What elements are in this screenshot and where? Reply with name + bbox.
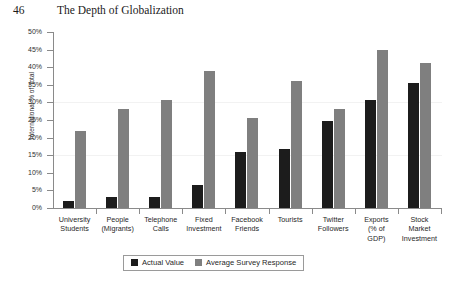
bar-group [225, 32, 268, 208]
bar-actual-value [365, 100, 376, 208]
bar-group [269, 32, 312, 208]
bar-survey-response [291, 81, 302, 208]
bar-group [139, 32, 182, 208]
y-axis-tick-label: 15% [0, 151, 42, 158]
bar-group [96, 32, 139, 208]
x-axis-category-label: StockMarketInvestment [391, 215, 447, 243]
bar-actual-value [149, 197, 160, 208]
bar-survey-response [118, 109, 129, 208]
bar-actual-value [63, 201, 74, 208]
x-axis-separator-tick [225, 209, 226, 214]
y-axis-tick-label: 35% [0, 81, 42, 88]
y-axis-tick-label: 30% [0, 98, 42, 105]
bar-group [182, 32, 225, 208]
x-axis-separator-tick [441, 209, 442, 214]
bar-actual-value [408, 83, 419, 208]
x-axis-separator-tick [355, 209, 356, 214]
bar-chart-figure: International % of Total 0%5%10%15%20%25… [0, 22, 453, 284]
bar-actual-value [192, 185, 203, 208]
x-axis-separator-tick [139, 209, 140, 214]
bar-survey-response [161, 100, 172, 208]
y-axis-tick-label: 0% [0, 204, 42, 211]
y-axis-tick-label: 20% [0, 134, 42, 141]
y-axis-tick-label: 40% [0, 63, 42, 70]
x-axis-separator-tick [182, 209, 183, 214]
bar-group [398, 32, 441, 208]
legend-label-actual: Actual Value [142, 258, 184, 267]
running-head: The Depth of Globalization [57, 4, 184, 16]
bar-group [355, 32, 398, 208]
bar-survey-response [377, 50, 388, 208]
x-axis-separator-tick [96, 209, 97, 214]
bar-actual-value [106, 197, 117, 208]
bar-group [53, 32, 96, 208]
bar-actual-value [322, 121, 333, 208]
legend-swatch-survey-icon [195, 259, 202, 266]
y-axis-tick-label: 5% [0, 186, 42, 193]
y-axis-tick-label: 50% [0, 28, 42, 35]
bar-actual-value [235, 152, 246, 208]
bar-group [312, 32, 355, 208]
x-axis-separator-tick [312, 209, 313, 214]
legend-entry-survey: Average Survey Response [195, 258, 296, 267]
legend-entry-actual: Actual Value [131, 258, 184, 267]
bar-survey-response [75, 131, 86, 208]
bar-survey-response [204, 71, 215, 208]
bar-actual-value [279, 149, 290, 208]
y-axis-tick [47, 208, 53, 209]
page-header: 46 The Depth of Globalization [0, 4, 453, 22]
y-axis-tick-label: 25% [0, 116, 42, 123]
legend-label-survey: Average Survey Response [206, 258, 296, 267]
chart-legend: Actual Value Average Survey Response [123, 255, 304, 271]
x-axis-separator-tick [269, 209, 270, 214]
x-axis-line [53, 208, 442, 209]
plot-area [53, 32, 441, 208]
x-axis-separator-tick [398, 209, 399, 214]
bar-survey-response [334, 109, 345, 208]
bar-survey-response [420, 63, 431, 208]
legend-swatch-actual-icon [131, 259, 138, 266]
bar-survey-response [247, 118, 258, 208]
page-number: 46 [13, 4, 25, 16]
y-axis-tick-label: 45% [0, 46, 42, 53]
y-axis-tick-label: 10% [0, 169, 42, 176]
